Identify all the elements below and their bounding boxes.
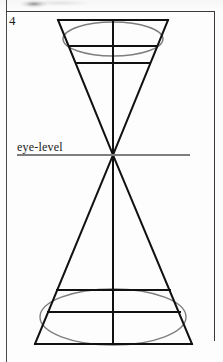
lower-cone-right-edge <box>113 155 192 344</box>
lower-cone-left-edge <box>35 155 113 344</box>
lower-cone-group <box>35 155 192 345</box>
upper-cone-right-edge <box>113 20 168 155</box>
upper-cone-left-edge <box>58 20 113 155</box>
eye-level-label: eye-level <box>17 141 63 153</box>
upper-cone-group <box>58 20 168 155</box>
perspective-figure-canvas <box>0 0 223 362</box>
scanned-page: 4 eye-level <box>0 0 223 362</box>
